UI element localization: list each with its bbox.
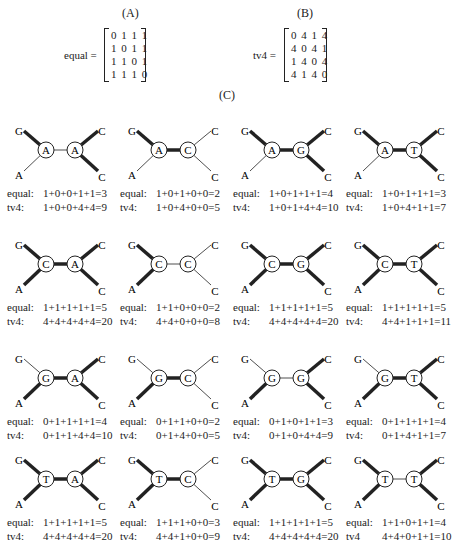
- cost-label: equal:: [346, 516, 382, 528]
- cost-value: 4+4+4+4+4=20: [43, 315, 113, 327]
- matrix-row: 0 1 1 1: [111, 29, 148, 42]
- cost-line: equal:1+0+1+0+0=2: [120, 187, 220, 199]
- tree-right-node-label: A: [71, 372, 79, 384]
- panel-a-label: (A): [122, 6, 139, 21]
- matrix-equal-name: equal =: [64, 49, 97, 61]
- cost-value: 4+4+0+1+1=10: [382, 530, 452, 542]
- cost-value: 1+1+0+0+0=2: [156, 301, 220, 313]
- cost-line: tv4:0+1+1+4+4=10: [7, 429, 113, 441]
- leaf-label: G: [15, 125, 23, 137]
- leaf-label: C: [98, 353, 105, 365]
- cost-value: 1+1+0+1+1=4: [382, 516, 446, 528]
- tree-right-node-label: C: [184, 473, 191, 485]
- leaf-label: C: [98, 500, 105, 512]
- leaf-label: C: [98, 171, 105, 183]
- tree-right-node-label: A: [71, 473, 79, 485]
- tree-left-node-label: A: [381, 144, 389, 156]
- cost-line: equal:0+1+1+1+1=4: [346, 415, 446, 427]
- leaf-label: A: [241, 169, 249, 181]
- tree-diagram: GGGACCequal:0+1+0+1+1=3tv4:0+1+0+4+4=9: [228, 353, 340, 463]
- cost-line: tv4:0+1+4+0+0=5: [120, 429, 220, 441]
- cost-line: tv4:4+4+1+0+0=9: [120, 530, 220, 542]
- matrix-equal-bracket-left: [104, 28, 109, 82]
- cost-value: 4+4+4+4+4=20: [269, 315, 339, 327]
- leaf-label: G: [15, 353, 23, 365]
- leaf-label: C: [324, 399, 331, 411]
- cost-value: 1+0+1+0+0=2: [156, 187, 220, 199]
- leaf-label: A: [241, 498, 249, 510]
- leaf-label: A: [241, 397, 249, 409]
- cost-line: tv4:4+4+0+0+0=8: [120, 315, 220, 327]
- matrix-row: 1 1 0 1: [111, 55, 148, 68]
- tree-left-node-label: C: [155, 258, 162, 270]
- cost-line: equal:1+0+1+1+1=4: [233, 187, 333, 199]
- cost-line: equal:1+1+1+1+1=5: [346, 301, 446, 313]
- leaf-label: A: [354, 397, 362, 409]
- tree-diagram: ACGACCequal:1+0+1+0+0=2tv4:1+0+4+0+0=5: [115, 125, 227, 235]
- tree-right-node-label: T: [411, 144, 418, 156]
- cost-label: equal:: [233, 516, 269, 528]
- cost-label: equal:: [233, 415, 269, 427]
- tree-diagram: ATGACCequal:1+0+1+1+1=3tv4:1+0+4+1+1=7: [341, 125, 453, 235]
- leaf-label: A: [15, 283, 23, 295]
- leaf-label: C: [324, 500, 331, 512]
- tree-left-node-label: G: [42, 372, 50, 384]
- tree-right-node-label: A: [71, 144, 79, 156]
- leaf-label: G: [354, 353, 362, 365]
- cost-line: tv4:4+4+4+4+4=20: [233, 530, 339, 542]
- leaf-label: C: [437, 171, 444, 183]
- tree-right-node-label: T: [411, 372, 418, 384]
- tree-diagram: CCGACCequal:1+1+0+0+0=2tv4:4+4+0+0+0=8: [115, 239, 227, 349]
- cost-value: 1+1+1+1+1=5: [43, 301, 107, 313]
- tree-left-node-label: T: [382, 473, 389, 485]
- tree-diagram: GCGACCequal:0+1+1+0+0=2tv4:0+1+4+0+0=5: [115, 353, 227, 463]
- tree-left-node-label: G: [381, 372, 389, 384]
- tree-diagram: CAGACCequal:1+1+1+1+1=5tv4:4+4+4+4+4=20: [2, 239, 114, 349]
- leaf-label: G: [128, 454, 136, 466]
- tree-diagram: TTGACCequal:1+1+0+1+1=4tv44+4+0+1+1=10: [341, 454, 453, 548]
- tree-left-node-label: G: [268, 372, 276, 384]
- leaf-label: C: [211, 239, 218, 251]
- leaf-label: C: [211, 171, 218, 183]
- leaf-label: C: [437, 285, 444, 297]
- cost-line: equal:1+1+0+0+0=2: [120, 301, 220, 313]
- leaf-label: G: [241, 239, 249, 251]
- leaf-label: A: [15, 397, 23, 409]
- matrix-row: 0 4 1 4: [291, 29, 328, 42]
- matrix-row: 1 0 1 1: [111, 42, 148, 55]
- cost-value: 1+1+1+1+1=5: [269, 516, 333, 528]
- cost-value: 0+1+4+0+0=5: [156, 429, 220, 441]
- leaf-label: G: [128, 125, 136, 137]
- cost-label: tv4:: [7, 315, 43, 327]
- leaf-label: G: [354, 239, 362, 251]
- cost-line: tv44+4+0+1+1=10: [346, 530, 452, 542]
- cost-value: 1+0+0+4+4=9: [43, 201, 107, 213]
- tree-left-node-label: A: [155, 144, 163, 156]
- leaf-label: C: [98, 399, 105, 411]
- cost-value: 1+0+0+1+1=3: [43, 187, 107, 199]
- cost-line: tv4:4+4+1+1+1=11: [346, 315, 451, 327]
- cost-value: 1+0+1+1+1=3: [382, 187, 446, 199]
- cost-line: tv4:0+1+0+4+4=9: [233, 429, 333, 441]
- cost-label: tv4:: [120, 530, 156, 542]
- matrix-row: 1 1 1 0: [111, 68, 148, 81]
- cost-value: 1+0+4+1+1=7: [382, 201, 446, 213]
- tree-left-node-label: G: [155, 372, 163, 384]
- cost-value: 1+1+1+1+1=5: [382, 301, 446, 313]
- cost-value: 0+1+1+1+1=4: [382, 415, 446, 427]
- leaf-label: G: [241, 125, 249, 137]
- leaf-label: G: [354, 454, 362, 466]
- leaf-label: C: [211, 399, 218, 411]
- tree-left-node-label: T: [269, 473, 276, 485]
- cost-value: 1+1+1+0+0=3: [156, 516, 220, 528]
- cost-value: 1+1+1+1+1=5: [43, 516, 107, 528]
- leaf-label: A: [128, 498, 136, 510]
- cost-value: 0+1+1+0+0=2: [156, 415, 220, 427]
- cost-value: 1+0+4+0+0=5: [156, 201, 220, 213]
- leaf-label: A: [128, 397, 136, 409]
- tree-right-node-label: T: [411, 473, 418, 485]
- leaf-label: C: [324, 125, 331, 137]
- leaf-label: C: [324, 454, 331, 466]
- matrix-row: 4 1 4 0: [291, 68, 328, 81]
- tree-diagram: TAGACCequal:1+1+1+1+1=5tv4:4+4+4+4+4=20: [2, 454, 114, 548]
